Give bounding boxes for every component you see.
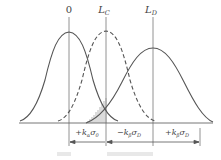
arrowhead-right-icon (194, 140, 199, 143)
interval-label-plus-k-beta-sigmaD: +kβσD (165, 128, 189, 139)
interval-label-minus-k-beta-sigmaD: −kβσD (117, 128, 141, 139)
figure-caption (57, 152, 153, 156)
arrowhead-left-icon (70, 140, 75, 143)
reference-lines (69, 17, 200, 146)
interval-label-k-alpha-sigma0: +kασ0 (75, 128, 99, 138)
label-origin: 0 (66, 4, 72, 15)
label-detection-limit: LD (144, 4, 158, 17)
arrowhead-left-icon (107, 140, 112, 143)
detection-limit-diagram: 0 LC LD (0, 0, 221, 160)
detection-limit-distribution-curve (86, 48, 213, 123)
label-critical-level: LC (97, 4, 110, 17)
interval-arrows (70, 140, 199, 143)
